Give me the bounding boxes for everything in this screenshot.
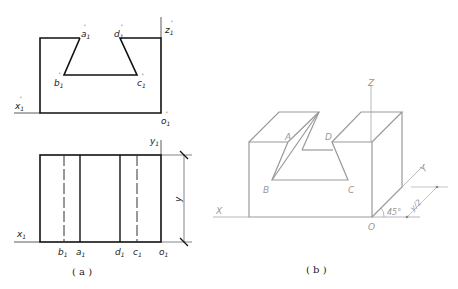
top-view-outline xyxy=(40,155,161,242)
prime-c: ' xyxy=(142,72,144,79)
label-d1-prime: d1 xyxy=(114,29,124,40)
label-o1: o1 xyxy=(159,247,168,258)
caption-a: ( a ) xyxy=(72,266,92,277)
label-a1-prime: a1 xyxy=(81,29,90,40)
top-view-labels: y x1 y1 b1 a1 d1 c1 o1 ( a ) xyxy=(16,136,183,277)
prime-z: ' xyxy=(171,19,173,26)
label-o1-prime: o1 xyxy=(161,116,170,127)
label-b1: b1 xyxy=(58,247,68,258)
dim-label-y: y xyxy=(173,196,183,203)
label-half-y: y/2 xyxy=(408,198,424,214)
label-D: D xyxy=(325,132,332,142)
label-O: O xyxy=(368,222,375,232)
label-x1: x1 xyxy=(16,229,26,240)
label-x1-prime: x1 xyxy=(14,101,24,112)
label-z1-prime: z1 xyxy=(164,25,174,36)
label-d1: d1 xyxy=(115,247,125,258)
label-angle-45: 45° xyxy=(387,208,401,217)
top-view xyxy=(14,140,192,246)
label-a1: a1 xyxy=(76,247,85,258)
oblique-view xyxy=(213,86,448,218)
dim-point-top xyxy=(436,186,439,189)
label-X: X xyxy=(215,206,223,216)
label-c1-prime: c1 xyxy=(137,78,146,89)
oblique-view-labels: A D B C Z X Y O 45° y/2 ( b ) xyxy=(215,78,430,275)
slanted-face-back xyxy=(302,112,319,150)
prime-d: ' xyxy=(121,23,123,30)
front-face xyxy=(249,142,372,217)
label-c1: c1 xyxy=(133,247,142,258)
right-top-face xyxy=(332,112,402,142)
caption-b: ( b ) xyxy=(306,264,327,275)
front-view-labels: a1 ' d1 ' b1 ' c1 ' x1 ' z1 ' o1 ' xyxy=(14,19,174,127)
label-Y: Y xyxy=(418,162,430,174)
front-view xyxy=(14,17,161,113)
prime-x: ' xyxy=(20,95,22,102)
label-A: A xyxy=(284,132,291,142)
label-b1-prime: b1 xyxy=(54,78,64,89)
label-B: B xyxy=(263,185,269,195)
angle-arc xyxy=(381,208,384,217)
label-Z: Z xyxy=(367,78,375,88)
prime-b: ' xyxy=(59,71,61,78)
slanted-face-diagonal xyxy=(272,112,319,180)
prime-o: ' xyxy=(166,110,168,117)
drawing-canvas: a1 ' d1 ' b1 ' c1 ' x1 ' z1 ' o1 ' y x1 … xyxy=(0,0,458,289)
label-y1: y1 xyxy=(149,136,159,147)
label-C: C xyxy=(348,185,355,195)
dim-point-bottom xyxy=(406,216,409,219)
